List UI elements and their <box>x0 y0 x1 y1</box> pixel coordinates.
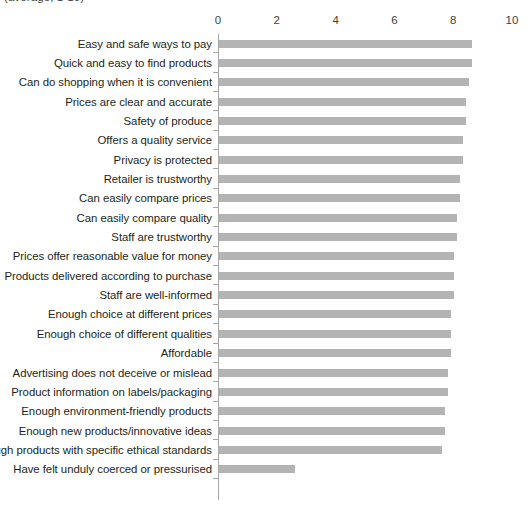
bar-row: Enough products with specific ethical st… <box>0 440 530 459</box>
bar <box>219 156 463 164</box>
bar-category-label: Staff are trustworthy <box>111 231 212 244</box>
x-axis-tick-label: 2 <box>274 14 280 26</box>
bar-category-label: Easy and safe ways to pay <box>78 37 212 50</box>
bar <box>219 369 448 377</box>
bar-category-label: Can easily compare quality <box>77 211 212 224</box>
bar-row: Can easily compare prices <box>0 189 530 208</box>
bar <box>219 407 445 415</box>
bar <box>219 40 472 48</box>
bar-category-label: Enough new products/innovative ideas <box>19 424 212 437</box>
bar-category-label: Products delivered according to purchase <box>4 269 212 282</box>
bar-row: Safety of produce <box>0 111 530 130</box>
bar <box>219 194 460 202</box>
x-axis-tick-label: 4 <box>332 14 338 26</box>
bar-category-label: Quick and easy to find products <box>54 57 212 70</box>
bar <box>219 233 457 241</box>
bar-row: Quick and easy to find products <box>0 53 530 72</box>
bar-category-label: Enough choice of different qualities <box>37 327 212 340</box>
bar-row: Staff are well-informed <box>0 285 530 304</box>
bar-category-label: Staff are well-informed <box>99 289 212 302</box>
horizontal-bar-chart: (average, 1-10) 0246810 Easy and safe wa… <box>0 0 530 508</box>
bar-row: Have felt unduly coerced or pressurised <box>0 460 530 479</box>
bar-row: Offers a quality service <box>0 131 530 150</box>
bar-row: Staff are trustworthy <box>0 227 530 246</box>
bar-category-label: Affordable <box>161 347 212 360</box>
bar <box>219 330 451 338</box>
bar-category-label: Privacy is protected <box>114 153 212 166</box>
category-axis-tick <box>213 478 218 479</box>
bar-category-label: Prices offer reasonable value for money <box>13 250 212 263</box>
bar-category-label: Enough products with specific ethical st… <box>0 443 212 456</box>
bar-row: Easy and safe ways to pay <box>0 34 530 53</box>
bar <box>219 310 451 318</box>
bar-category-label: Enough choice at different prices <box>48 308 212 321</box>
bar <box>219 98 466 106</box>
bar <box>219 427 445 435</box>
x-axis-tick-label: 0 <box>215 14 221 26</box>
bar <box>219 272 454 280</box>
bar <box>219 78 469 86</box>
bar-row: Affordable <box>0 344 530 363</box>
bar-category-label: Can do shopping when it is convenient <box>19 76 212 89</box>
bar <box>219 252 454 260</box>
bar <box>219 349 451 357</box>
bar-category-label: Safety of produce <box>124 115 212 128</box>
bar-category-label: Have felt unduly coerced or pressurised <box>13 463 212 476</box>
x-axis-tick-labels: 0246810 <box>0 14 530 30</box>
bar-row: Products delivered according to purchase <box>0 266 530 285</box>
bar-category-label: Prices are clear and accurate <box>65 95 212 108</box>
bar-row: Advertising does not deceive or mislead <box>0 363 530 382</box>
bar-row: Enough environment-friendly products <box>0 402 530 421</box>
bar <box>219 388 448 396</box>
bar-row: Product information on labels/packaging <box>0 382 530 401</box>
x-axis-tick-label: 8 <box>450 14 456 26</box>
bar-row: Enough new products/innovative ideas <box>0 421 530 440</box>
bar-category-label: Retailer is trustworthy <box>104 173 212 186</box>
bar-category-label: Advertising does not deceive or mislead <box>13 366 212 379</box>
chart-title: (average, 1-10) <box>4 0 84 3</box>
bar-rows: Easy and safe ways to payQuick and easy … <box>0 34 530 479</box>
bar <box>219 136 463 144</box>
bar-row: Can do shopping when it is convenient <box>0 73 530 92</box>
bar-row: Enough choice at different prices <box>0 305 530 324</box>
x-axis-tick-label: 6 <box>391 14 397 26</box>
bar-row: Retailer is trustworthy <box>0 169 530 188</box>
bar-row: Can easily compare quality <box>0 208 530 227</box>
bar <box>219 465 295 473</box>
bar-row: Enough choice of different qualities <box>0 324 530 343</box>
bar-row: Prices offer reasonable value for money <box>0 247 530 266</box>
bar <box>219 59 472 67</box>
bar-category-label: Product information on labels/packaging <box>11 385 212 398</box>
bar-row: Privacy is protected <box>0 150 530 169</box>
bar <box>219 291 454 299</box>
bar <box>219 117 466 125</box>
bar-row: Prices are clear and accurate <box>0 92 530 111</box>
bar <box>219 446 442 454</box>
bar-category-label: Offers a quality service <box>98 134 212 147</box>
bar <box>219 214 457 222</box>
bar-category-label: Can easily compare prices <box>79 192 212 205</box>
x-axis-tick-label: 10 <box>506 14 519 26</box>
bar-category-label: Enough environment-friendly products <box>21 405 212 418</box>
bar <box>219 175 460 183</box>
